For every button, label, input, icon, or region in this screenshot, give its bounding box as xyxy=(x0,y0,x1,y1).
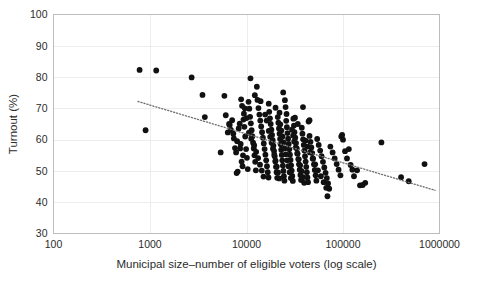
data-point xyxy=(245,166,251,172)
data-point xyxy=(280,163,286,169)
y-tick-label: 50 xyxy=(36,165,48,177)
data-point xyxy=(221,93,227,99)
data-point xyxy=(248,75,254,81)
data-point xyxy=(241,124,247,130)
data-point xyxy=(321,165,327,171)
data-point xyxy=(313,178,319,184)
data-point xyxy=(362,180,368,186)
y-tick-label: 70 xyxy=(36,102,48,114)
data-point xyxy=(275,170,281,176)
data-point xyxy=(280,134,286,140)
data-point xyxy=(307,133,313,139)
data-point xyxy=(379,140,385,146)
data-point xyxy=(259,168,265,174)
data-point xyxy=(189,74,195,80)
data-point xyxy=(336,167,342,173)
data-point xyxy=(282,178,288,184)
data-point xyxy=(270,146,276,152)
data-point xyxy=(258,98,264,104)
data-point xyxy=(242,105,248,111)
data-point xyxy=(252,92,258,98)
data-point xyxy=(313,172,319,178)
data-point xyxy=(143,127,149,133)
data-point xyxy=(282,97,288,103)
data-point xyxy=(244,115,250,121)
x-tick-label: 100 xyxy=(45,238,63,250)
data-point xyxy=(246,99,252,105)
chart-canvas: 30405060708090100 1001000100001000001000… xyxy=(0,0,482,287)
data-point xyxy=(327,144,333,150)
data-point xyxy=(262,146,268,152)
data-point xyxy=(257,162,263,168)
x-axis-tick-labels: 1001000100001000001000000 xyxy=(45,238,460,250)
data-point xyxy=(254,84,260,90)
data-point xyxy=(314,136,320,142)
data-point xyxy=(292,115,298,121)
y-axis-title: Turnout (%) xyxy=(7,94,19,154)
data-point xyxy=(258,124,264,130)
data-point xyxy=(290,133,296,139)
data-point xyxy=(276,176,282,182)
data-point xyxy=(240,163,246,169)
data-point xyxy=(280,168,286,174)
data-point xyxy=(315,167,321,173)
plot-area-border xyxy=(54,15,440,234)
data-point xyxy=(200,92,206,98)
data-point xyxy=(330,150,336,156)
data-point xyxy=(312,161,318,167)
data-point xyxy=(284,111,290,117)
data-point xyxy=(283,118,289,124)
x-tick-label: 1000000 xyxy=(419,238,460,250)
data-point xyxy=(137,67,143,73)
data-point xyxy=(261,174,267,180)
data-point xyxy=(301,180,307,186)
data-point xyxy=(264,163,270,169)
data-point xyxy=(266,175,272,181)
data-point xyxy=(279,128,285,134)
data-point xyxy=(266,128,272,134)
data-point xyxy=(303,138,309,144)
data-point xyxy=(273,105,279,111)
data-point xyxy=(323,170,329,176)
data-point xyxy=(255,155,261,161)
data-point xyxy=(294,151,300,157)
data-point xyxy=(300,104,306,110)
data-point xyxy=(238,96,244,102)
x-tick-label: 100000 xyxy=(325,238,360,250)
data-point xyxy=(344,156,350,162)
data-point xyxy=(277,110,283,116)
data-point xyxy=(266,101,272,107)
data-point xyxy=(235,169,241,175)
data-point xyxy=(264,118,270,124)
data-point xyxy=(304,169,310,175)
data-point xyxy=(283,104,289,110)
data-point xyxy=(256,105,262,111)
data-point xyxy=(262,112,268,118)
data-point xyxy=(297,162,303,168)
data-point xyxy=(230,131,236,137)
data-point xyxy=(223,112,229,118)
data-point xyxy=(317,148,323,154)
data-point xyxy=(291,139,297,145)
data-point xyxy=(310,156,316,162)
data-point xyxy=(248,120,254,126)
y-tick-label: 80 xyxy=(36,71,48,83)
data-point xyxy=(316,142,322,148)
data-point xyxy=(295,121,301,127)
data-point xyxy=(261,141,267,147)
data-point xyxy=(307,117,313,123)
data-point xyxy=(325,193,331,199)
data-point xyxy=(354,167,360,173)
data-point xyxy=(321,179,327,185)
data-point xyxy=(300,174,306,180)
x-tick-label: 10000 xyxy=(232,238,261,250)
data-point xyxy=(263,157,269,163)
data-point xyxy=(202,114,208,120)
data-point xyxy=(234,138,240,144)
data-point xyxy=(318,173,324,179)
data-point xyxy=(274,164,280,170)
data-point xyxy=(288,175,294,181)
data-point xyxy=(284,124,290,130)
data-point xyxy=(251,142,257,148)
data-point xyxy=(422,161,428,167)
